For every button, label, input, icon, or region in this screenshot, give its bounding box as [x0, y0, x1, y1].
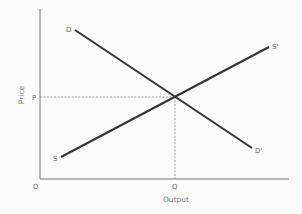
supply-demand-diagram: D D' S S' P Q O Output Price	[0, 0, 302, 214]
price-label: P	[32, 94, 36, 102]
demand-end-label: D'	[255, 147, 262, 155]
demand-start-label: D	[66, 26, 71, 34]
quantity-label: Q	[172, 183, 178, 191]
demand-curve	[75, 30, 252, 148]
supply-start-label: S	[53, 155, 58, 163]
origin-label: O	[33, 183, 39, 191]
y-axis-title: Price	[17, 85, 26, 104]
supply-end-label: S'	[272, 43, 278, 51]
supply-curve	[61, 47, 269, 157]
x-axis-title: Output	[163, 195, 189, 204]
